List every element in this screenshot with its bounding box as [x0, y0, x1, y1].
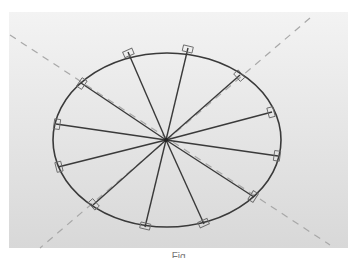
figure-caption: Fig. — [150, 252, 210, 258]
hub-point — [164, 138, 168, 142]
spoke-line — [166, 48, 188, 140]
spoke-line — [145, 140, 166, 227]
spoke-line — [166, 140, 278, 156]
spoke-line — [56, 124, 166, 140]
ellipse-spoke-diagram — [0, 0, 355, 258]
